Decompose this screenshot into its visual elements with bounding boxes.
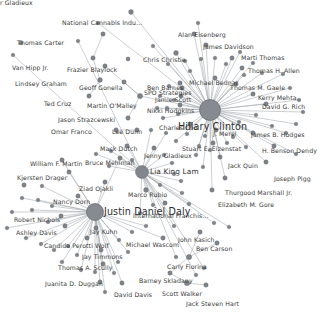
graph-node[interactable] bbox=[180, 86, 184, 90]
graph-node[interactable] bbox=[162, 153, 166, 157]
graph-node[interactable] bbox=[251, 131, 255, 135]
graph-node[interactable] bbox=[116, 260, 120, 264]
graph-node[interactable] bbox=[288, 86, 292, 90]
graph-node[interactable] bbox=[202, 266, 206, 270]
graph-node[interactable] bbox=[187, 202, 191, 206]
graph-node[interactable] bbox=[168, 271, 172, 275]
graph-node[interactable] bbox=[210, 188, 214, 192]
graph-node[interactable] bbox=[46, 220, 50, 224]
graph-node[interactable] bbox=[178, 103, 182, 107]
graph-node[interactable] bbox=[264, 160, 268, 164]
graph-node[interactable] bbox=[208, 148, 212, 152]
graph-node[interactable] bbox=[126, 57, 130, 61]
graph-node[interactable] bbox=[98, 78, 103, 83]
graph-node[interactable] bbox=[60, 260, 64, 264]
graph-node[interactable] bbox=[237, 120, 241, 124]
graph-node[interactable] bbox=[204, 283, 208, 287]
graph-node[interactable] bbox=[201, 165, 205, 169]
graph-node[interactable] bbox=[129, 10, 134, 15]
graph-node[interactable] bbox=[59, 214, 63, 218]
graph-node[interactable] bbox=[297, 98, 301, 102]
graph-node[interactable] bbox=[211, 141, 215, 145]
graph-node[interactable] bbox=[234, 82, 238, 86]
network-graph-canvas[interactable]: National Cannabis Indu...Thomas CarterVa… bbox=[0, 0, 336, 318]
graph-node[interactable] bbox=[213, 76, 217, 80]
graph-node[interactable] bbox=[36, 198, 40, 202]
graph-node[interactable] bbox=[30, 208, 34, 212]
graph-node[interactable] bbox=[223, 176, 227, 180]
graph-node[interactable] bbox=[270, 124, 274, 128]
graph-node[interactable] bbox=[93, 270, 97, 274]
graph-node[interactable] bbox=[186, 254, 191, 259]
graph-node[interactable] bbox=[137, 93, 142, 98]
graph-node[interactable] bbox=[126, 250, 130, 254]
graph-node[interactable] bbox=[194, 153, 198, 157]
graph-node[interactable] bbox=[188, 69, 192, 73]
graph-node[interactable] bbox=[176, 112, 180, 116]
graph-node[interactable] bbox=[254, 113, 258, 117]
graph-node[interactable] bbox=[87, 94, 91, 98]
graph-node[interactable] bbox=[161, 116, 165, 120]
graph-node[interactable] bbox=[85, 236, 89, 240]
graph-node[interactable] bbox=[60, 158, 64, 162]
graph-node[interactable] bbox=[260, 71, 264, 75]
graph-node[interactable] bbox=[251, 92, 255, 96]
graph-node[interactable] bbox=[218, 155, 222, 159]
graph-node[interactable] bbox=[63, 224, 67, 228]
graph-node[interactable] bbox=[196, 21, 200, 25]
graph-node[interactable] bbox=[294, 122, 298, 126]
graph-hub-node[interactable] bbox=[87, 204, 104, 221]
graph-node[interactable] bbox=[96, 21, 100, 25]
graph-node[interactable] bbox=[94, 152, 98, 156]
graph-node[interactable] bbox=[118, 156, 122, 160]
graph-node[interactable] bbox=[103, 290, 107, 294]
graph-node[interactable] bbox=[66, 244, 70, 248]
graph-node[interactable] bbox=[194, 273, 198, 277]
graph-node[interactable] bbox=[161, 236, 165, 240]
graph-node[interactable] bbox=[184, 280, 189, 285]
graph-node[interactable] bbox=[227, 225, 231, 229]
graph-node[interactable] bbox=[183, 59, 187, 63]
graph-node[interactable] bbox=[215, 241, 219, 245]
graph-node[interactable] bbox=[158, 183, 162, 187]
graph-node[interactable] bbox=[76, 194, 80, 198]
graph-node[interactable] bbox=[117, 238, 121, 242]
graph-node[interactable] bbox=[204, 43, 208, 47]
graph-node[interactable] bbox=[122, 80, 126, 84]
graph-node[interactable] bbox=[151, 203, 155, 207]
graph-node[interactable] bbox=[188, 122, 192, 126]
graph-node[interactable] bbox=[167, 84, 171, 88]
graph-node[interactable] bbox=[94, 226, 98, 230]
graph-node[interactable] bbox=[67, 170, 71, 174]
graph-node[interactable] bbox=[101, 32, 105, 36]
graph-node[interactable] bbox=[174, 255, 178, 259]
graph-node[interactable] bbox=[103, 64, 107, 68]
graph-node[interactable] bbox=[203, 134, 207, 138]
graph-node[interactable] bbox=[11, 53, 15, 57]
graph-node[interactable] bbox=[22, 183, 26, 187]
graph-node[interactable] bbox=[130, 230, 134, 234]
graph-node[interactable] bbox=[98, 280, 102, 284]
graph-node[interactable] bbox=[192, 32, 196, 36]
graph-node[interactable] bbox=[76, 39, 80, 43]
graph-node[interactable] bbox=[99, 248, 103, 252]
graph-node[interactable] bbox=[138, 211, 142, 215]
graph-node[interactable] bbox=[264, 102, 268, 106]
graph-node[interactable] bbox=[185, 132, 189, 136]
graph-node[interactable] bbox=[50, 204, 54, 208]
graph-node[interactable] bbox=[198, 230, 202, 234]
graph-node[interactable] bbox=[199, 57, 203, 61]
graph-node[interactable] bbox=[174, 51, 179, 56]
graph-node[interactable] bbox=[126, 116, 130, 120]
graph-node[interactable] bbox=[272, 144, 276, 148]
graph-node[interactable] bbox=[10, 210, 14, 214]
graph-node[interactable] bbox=[20, 196, 24, 200]
graph-node[interactable] bbox=[172, 98, 176, 102]
graph-node[interactable] bbox=[19, 41, 23, 45]
graph-node[interactable] bbox=[214, 128, 218, 132]
graph-node[interactable] bbox=[144, 224, 148, 228]
graph-node[interactable] bbox=[174, 139, 178, 143]
graph-node[interactable] bbox=[149, 128, 153, 132]
graph-node[interactable] bbox=[294, 152, 298, 156]
graph-node[interactable] bbox=[170, 161, 174, 165]
